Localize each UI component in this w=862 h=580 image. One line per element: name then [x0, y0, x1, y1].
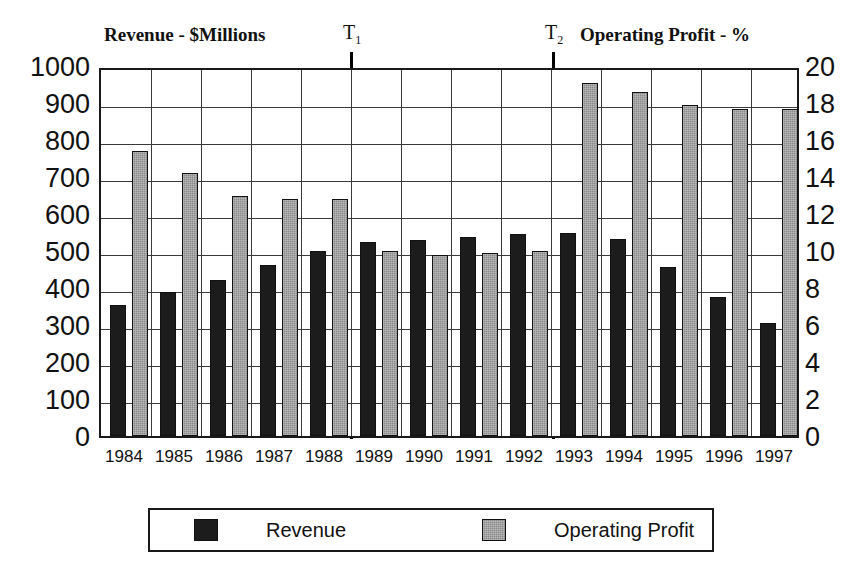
legend-swatch-revenue — [194, 519, 218, 541]
x-axis-tick-label: 1988 — [299, 447, 349, 467]
x-axis-tick-label: 1985 — [149, 447, 199, 467]
bar-group — [351, 70, 401, 436]
bar-operating-profit[interactable] — [232, 196, 248, 437]
right-axis-title: Operating Profit - % — [580, 24, 750, 46]
bar-group — [601, 70, 651, 436]
y-axis-left-tick-label: 100 — [2, 387, 90, 414]
y-axis-right-tick-label: 16 — [805, 128, 862, 155]
y-axis-left-tick-label: 800 — [2, 128, 90, 155]
bar-revenue[interactable] — [460, 237, 476, 436]
y-axis-left-tick-label: 200 — [2, 350, 90, 377]
bar-operating-profit[interactable] — [482, 253, 498, 436]
bar-operating-profit[interactable] — [132, 151, 148, 436]
bar-revenue[interactable] — [660, 267, 676, 436]
legend-item-operating-profit[interactable]: Operating Profit — [482, 519, 694, 542]
left-axis-title: Revenue - $Millions — [104, 24, 266, 46]
bar-group — [501, 70, 551, 436]
bar-operating-profit[interactable] — [432, 255, 448, 436]
marker-t2-sub: 2 — [557, 33, 563, 47]
plot-area — [99, 68, 799, 438]
x-axis-tick-label: 1994 — [599, 447, 649, 467]
bar-group — [451, 70, 501, 436]
bar-revenue[interactable] — [160, 292, 176, 436]
bar-group — [201, 70, 251, 436]
x-axis-tick-label: 1996 — [699, 447, 749, 467]
y-axis-right-tick-label: 6 — [805, 313, 862, 340]
bar-operating-profit[interactable] — [632, 92, 648, 436]
bar-group — [551, 70, 601, 436]
y-axis-left-tick-label: 400 — [2, 276, 90, 303]
bar-revenue[interactable] — [260, 265, 276, 436]
bar-operating-profit[interactable] — [382, 251, 398, 436]
y-axis-right-tick-label: 14 — [805, 165, 862, 192]
y-axis-left-tick-label: 0 — [2, 424, 90, 451]
marker-label-t2: T2 — [545, 21, 563, 48]
x-axis-tick-label: 1987 — [249, 447, 299, 467]
y-axis-right-tick-label: 20 — [805, 54, 862, 81]
y-axis-left-tick-label: 1000 — [2, 54, 90, 81]
x-axis-tick-label: 1991 — [449, 447, 499, 467]
y-axis-right-tick-label: 0 — [805, 424, 862, 451]
bar-revenue[interactable] — [610, 239, 626, 436]
bar-revenue[interactable] — [760, 323, 776, 436]
x-axis-tick-label: 1992 — [499, 447, 549, 467]
x-axis-tick-label: 1990 — [399, 447, 449, 467]
bar-operating-profit[interactable] — [532, 251, 548, 436]
bar-group — [251, 70, 301, 436]
bar-group — [751, 70, 801, 436]
y-axis-left-tick-label: 300 — [2, 313, 90, 340]
legend-item-revenue[interactable]: Revenue — [194, 519, 346, 542]
bar-operating-profit[interactable] — [732, 109, 748, 436]
bar-operating-profit[interactable] — [682, 105, 698, 436]
bar-group — [401, 70, 451, 436]
legend-label-revenue: Revenue — [266, 519, 346, 542]
legend-label-operating-profit: Operating Profit — [554, 519, 694, 542]
y-axis-left-tick-label: 500 — [2, 239, 90, 266]
y-axis-right-tick-label: 8 — [805, 276, 862, 303]
bar-revenue[interactable] — [510, 234, 526, 436]
y-axis-left-tick-label: 600 — [2, 202, 90, 229]
bar-revenue[interactable] — [710, 297, 726, 436]
y-axis-left-tick-label: 700 — [2, 165, 90, 192]
marker-label-t1: T1 — [343, 21, 361, 48]
x-axis-tick-label: 1984 — [99, 447, 149, 467]
bar-operating-profit[interactable] — [332, 199, 348, 436]
x-axis-tick-label: 1997 — [749, 447, 799, 467]
bar-revenue[interactable] — [360, 242, 376, 436]
bar-operating-profit[interactable] — [782, 109, 798, 436]
legend-swatch-operating-profit — [482, 519, 506, 541]
bar-group — [701, 70, 751, 436]
bar-operating-profit[interactable] — [282, 199, 298, 436]
y-axis-right-tick-label: 10 — [805, 239, 862, 266]
y-axis-left-tick-label: 900 — [2, 91, 90, 118]
y-axis-right-tick-label: 4 — [805, 350, 862, 377]
bar-group — [301, 70, 351, 436]
marker-t1-letter: T — [343, 21, 355, 43]
bar-series-container — [101, 70, 797, 436]
bar-revenue[interactable] — [110, 305, 126, 436]
bar-revenue[interactable] — [410, 240, 426, 436]
bar-group — [101, 70, 151, 436]
bar-revenue[interactable] — [210, 280, 226, 436]
bar-operating-profit[interactable] — [582, 83, 598, 436]
x-axis-tick-label: 1995 — [649, 447, 699, 467]
x-axis-tick-label: 1993 — [549, 447, 599, 467]
bar-group — [151, 70, 201, 436]
bar-operating-profit[interactable] — [182, 173, 198, 436]
x-axis-tick-label: 1989 — [349, 447, 399, 467]
bar-group — [651, 70, 701, 436]
bar-revenue[interactable] — [310, 251, 326, 436]
y-axis-right-tick-label: 18 — [805, 91, 862, 118]
y-axis-right-tick-label: 12 — [805, 202, 862, 229]
bar-revenue[interactable] — [560, 233, 576, 436]
y-axis-right-tick-label: 2 — [805, 387, 862, 414]
marker-t1-sub: 1 — [355, 33, 361, 47]
x-axis-tick-label: 1986 — [199, 447, 249, 467]
chart-legend: Revenue Operating Profit — [148, 508, 714, 552]
marker-t2-letter: T — [545, 21, 557, 43]
